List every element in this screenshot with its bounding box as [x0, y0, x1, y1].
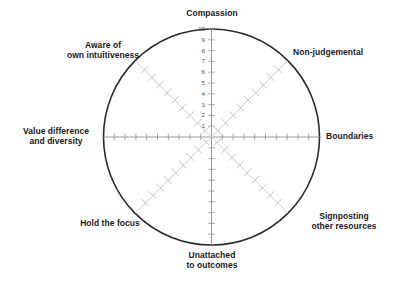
- axis-label-value-difference-line2: and diversity: [10, 136, 102, 146]
- axis-label-signposting-line2: other resources: [295, 221, 393, 231]
- axis-label-non-judgemental: Non-judgemental: [293, 47, 393, 57]
- axis-label-unattached-line2: to outcomes: [166, 260, 258, 270]
- scale-tick-4: 4: [193, 91, 205, 97]
- axis-label-boundaries: Boundaries: [326, 131, 396, 141]
- scale-tick-2: 2: [193, 112, 205, 118]
- scale-tick-1: 1: [193, 123, 205, 129]
- axis-label-signposting-line1: Signposting: [295, 211, 393, 221]
- axis-label-value-difference-and-diversity: Value difference and diversity: [10, 126, 102, 146]
- scale-tick-10: 10: [193, 26, 205, 32]
- axis-label-hold-the-focus: Hold the focus: [68, 218, 152, 228]
- axis-label-non-judgemental-line1: Non-judgemental: [293, 47, 393, 57]
- scale-tick-8: 8: [193, 48, 205, 54]
- wheel-chart: 10 9 8 7 6 5 4 3 2 1 Compassion Non-judg…: [0, 0, 397, 287]
- axis-label-signposting-other-resources: Signposting other resources: [295, 211, 393, 231]
- scale-tick-3: 3: [193, 102, 205, 108]
- scale-tick-9: 9: [193, 37, 205, 43]
- axis-label-aware-of-own-intuitiveness: Aware of own intuitiveness: [48, 40, 158, 60]
- axis-label-compassion: Compassion: [165, 8, 259, 18]
- axis-label-aware-line2: own intuitiveness: [48, 50, 158, 60]
- scale-tick-5: 5: [193, 80, 205, 86]
- axis-label-value-difference-line1: Value difference: [10, 126, 102, 136]
- axis-label-hold-the-focus-line1: Hold the focus: [68, 218, 152, 228]
- scale-tick-6: 6: [193, 69, 205, 75]
- axis-label-compassion-line1: Compassion: [165, 8, 259, 18]
- axis-label-boundaries-line1: Boundaries: [326, 131, 396, 141]
- scale-tick-7: 7: [193, 58, 205, 64]
- axis-label-unattached-to-outcomes: Unattached to outcomes: [166, 250, 258, 270]
- axis-label-aware-line1: Aware of: [48, 40, 158, 50]
- axis-label-unattached-line1: Unattached: [166, 250, 258, 260]
